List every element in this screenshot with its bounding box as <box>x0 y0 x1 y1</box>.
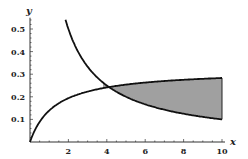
y-tick-label: 0.3 <box>11 69 25 79</box>
plot-area: 2468100.10.20.30.40.5xy <box>11 5 237 156</box>
y-tick-label: 0.4 <box>11 47 25 57</box>
shaded-region <box>103 78 222 119</box>
y-tick-label: 0.1 <box>11 114 25 124</box>
x-tick-label: 6 <box>142 146 148 156</box>
chart: 2468100.10.20.30.40.5xy <box>0 0 248 159</box>
y-tick-label: 0.2 <box>11 92 25 102</box>
x-tick-label: 8 <box>181 146 187 156</box>
x-tick-label: 10 <box>216 146 228 156</box>
x-tick-label: 2 <box>66 146 72 156</box>
y-tick-label: 0.5 <box>11 24 25 34</box>
x-axis-label: x <box>229 136 237 147</box>
y-axis-label: y <box>25 5 33 16</box>
x-tick-label: 4 <box>104 146 110 156</box>
